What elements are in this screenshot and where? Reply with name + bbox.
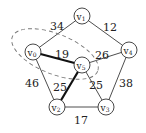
- edge-weight-label: 25: [53, 81, 67, 94]
- edge-weight-label: 38: [119, 77, 133, 90]
- edge-weight-label: 17: [74, 114, 88, 127]
- nodes-layer: v0v1v2v3v4v5: [25, 8, 137, 115]
- edge-weight-label: 34: [50, 20, 64, 33]
- edge-weight-label: 26: [95, 49, 109, 62]
- graph-svg: 341219264625253817 v0v1v2v3v4v5: [0, 0, 146, 133]
- node-v3: v3: [98, 99, 114, 115]
- node-v1: v1: [74, 8, 90, 24]
- node-v0: v0: [25, 44, 41, 60]
- edge-weight-label: 25: [89, 79, 103, 92]
- node-v4: v4: [121, 42, 137, 58]
- edge-weight-label: 19: [55, 48, 69, 61]
- edge-weight-label: 46: [25, 77, 39, 90]
- graph-diagram: 341219264625253817 v0v1v2v3v4v5: [0, 0, 146, 133]
- node-v5: v5: [74, 57, 90, 73]
- edge-weight-label: 12: [103, 21, 117, 34]
- edge-weights-layer: 341219264625253817: [25, 20, 133, 127]
- node-v2: v2: [49, 99, 65, 115]
